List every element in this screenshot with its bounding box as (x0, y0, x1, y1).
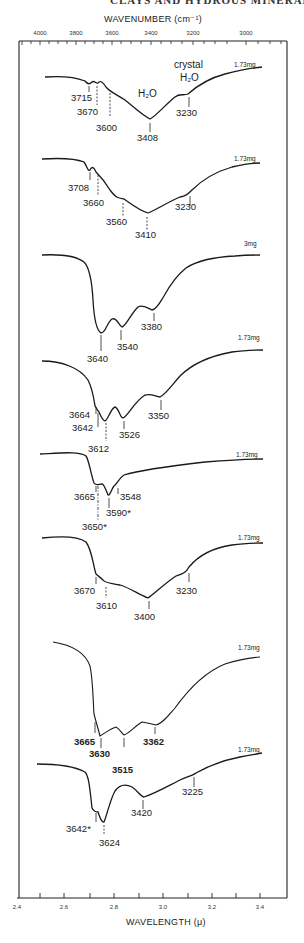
top-axis-ticks (22, 41, 281, 45)
sample-mass-1: 1.73mg (234, 61, 256, 69)
band-label: 3230 (176, 107, 197, 118)
band-label: 3420 (131, 807, 152, 818)
band-label: 3650* (82, 521, 107, 532)
annotation-crystal-h2o: H₂O (180, 72, 199, 83)
band-label: 3526 (119, 429, 140, 440)
band-label: 3230 (176, 585, 197, 596)
band-label: 3610 (96, 600, 117, 611)
band-label: 3362 (143, 736, 164, 747)
sample-mass-8: 1.73mg (238, 746, 260, 754)
band-label: 3630 (89, 748, 110, 759)
sample-mass-6: 1.73mg (238, 534, 260, 542)
bottom-axis-ticks (40, 893, 260, 898)
spectrum-5: 1.73mg 3665 3650* 3590* 3548 (40, 451, 263, 532)
band-label: 3590* (106, 507, 131, 518)
spectrum-4: 1.73mg 3664 3642 3612 3526 3350 (42, 334, 263, 454)
band-label: 3600 (96, 122, 117, 133)
band-label: 3715 (71, 92, 92, 103)
sample-mass-3: 3mg (244, 240, 257, 248)
spectrum-7: 1.73mg 3665 3630 3515 3362 (53, 642, 260, 775)
band-label: 3640 (87, 353, 108, 364)
band-label: 3408 (137, 132, 158, 143)
band-label: 3624 (99, 837, 120, 848)
band-label: 3560 (106, 216, 127, 227)
band-label: 3665 (74, 491, 95, 502)
spectra-plot: H₂O crystal H₂O 1.73mg 3715 3670 3600 34… (0, 0, 304, 943)
band-label: 3410 (135, 229, 156, 240)
spectrum-6: 1.73mg 3670 3610 3400 3230 (42, 534, 263, 622)
band-label: 3670 (77, 106, 98, 117)
band-label: 3540 (117, 341, 138, 352)
band-label: 3665 (74, 736, 96, 747)
band-label: 3515 (112, 764, 134, 775)
spectrum-8: 1.73mg 3642* 3624 3420 3225 (37, 746, 262, 848)
sample-mass-2: 1.73mg (234, 155, 256, 163)
spectrum-1: H₂O crystal H₂O 1.73mg 3715 3670 3600 34… (45, 59, 262, 143)
band-label: 3380 (141, 321, 162, 332)
annotation-crystal: crystal (174, 59, 203, 70)
band-label: 3642 (72, 422, 93, 433)
band-label: 3612 (88, 443, 109, 454)
band-label: 3664 (69, 409, 90, 420)
band-label: 3230 (175, 201, 196, 212)
sample-mass-5: 1.73mg (236, 451, 258, 459)
band-label: 3660 (83, 197, 104, 208)
band-label: 3670 (74, 585, 95, 596)
band-label: 3225 (182, 786, 203, 797)
band-label: 3548 (120, 491, 141, 502)
band-label: 3708 (68, 182, 89, 193)
band-label: 3400 (134, 611, 155, 622)
annotation-h2o: H₂O (138, 88, 157, 99)
band-label: 3642* (66, 823, 91, 834)
band-label: 3350 (148, 410, 169, 421)
spectrum-3: 3mg 3640 3540 3380 (42, 240, 260, 364)
sample-mass-4: 1.73mg (238, 334, 260, 342)
spectrum-2: 1.73mg 3708 3660 3560 3410 3230 (42, 155, 260, 240)
sample-mass-7: 1.73mg (238, 644, 260, 652)
